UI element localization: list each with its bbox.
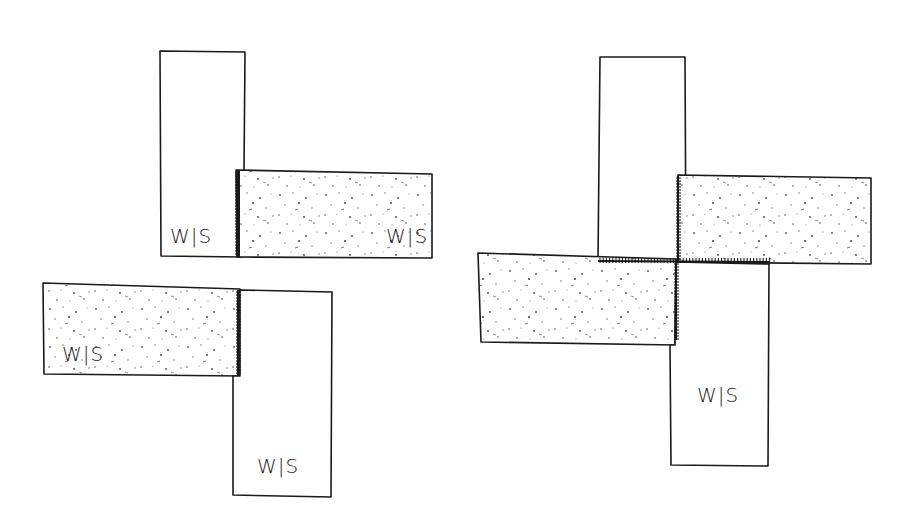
piecing-diagram: W|S W|S W|S W|S W|S [0, 0, 918, 520]
piece-h [670, 262, 769, 466]
label-piece-h: W|S [697, 383, 739, 407]
piece-e [598, 57, 686, 262]
piece-f [678, 175, 871, 264]
left-figure: W|S W|S W|S W|S [43, 51, 432, 497]
label-piece-c: W|S [62, 342, 104, 366]
piece-g [478, 253, 676, 345]
right-figure: W|S [478, 57, 871, 466]
label-piece-d: W|S [257, 454, 299, 478]
label-piece-b: W|S [386, 224, 428, 248]
label-piece-a: W|S [170, 224, 212, 248]
